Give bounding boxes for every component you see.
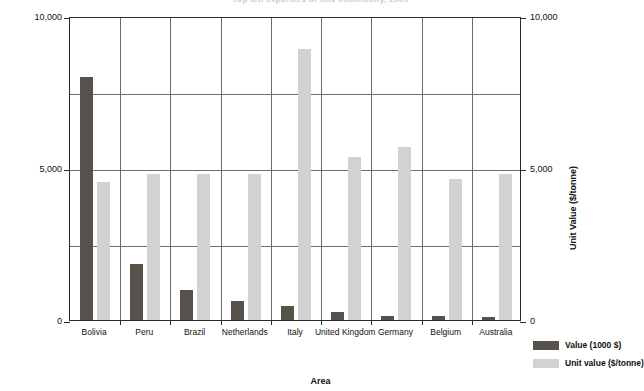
bar-unit-value bbox=[197, 174, 210, 320]
bar-group bbox=[371, 18, 421, 320]
bar-value bbox=[482, 317, 495, 320]
x-axis-tick bbox=[422, 320, 423, 325]
bar-value bbox=[381, 316, 394, 320]
y2-axis-tick bbox=[520, 322, 526, 323]
x-axis-tick bbox=[120, 320, 121, 325]
bar-unit-value bbox=[499, 174, 512, 320]
bar-group bbox=[170, 18, 220, 320]
bar-value bbox=[80, 77, 93, 320]
x-axis-tick bbox=[321, 320, 322, 325]
x-axis-label-australia: Australia bbox=[463, 327, 529, 337]
bar-group bbox=[271, 18, 321, 320]
y-axis-label: 0 bbox=[2, 317, 62, 326]
bar-value bbox=[130, 264, 143, 320]
y2-axis-tick bbox=[520, 170, 526, 171]
legend-item: Unit value ($/tonne) bbox=[533, 356, 644, 370]
x-axis-tick bbox=[170, 320, 171, 325]
bar-value bbox=[180, 290, 193, 320]
bar-unit-value bbox=[348, 157, 361, 320]
bar-value bbox=[231, 301, 244, 320]
x-axis-tick bbox=[371, 320, 372, 325]
bar-group bbox=[70, 18, 120, 320]
y2-axis-tick bbox=[520, 18, 526, 19]
bar-value bbox=[331, 312, 344, 320]
y-axis-tick bbox=[64, 322, 70, 323]
bar-group bbox=[321, 18, 371, 320]
y-axis-label: 5,000 bbox=[2, 165, 62, 174]
x-axis-title: Area bbox=[0, 376, 641, 386]
bar-unit-value bbox=[97, 182, 110, 320]
y-axis-label: 10,000 bbox=[2, 13, 62, 22]
bar-unit-value bbox=[147, 174, 160, 320]
y-axis-tick bbox=[64, 170, 70, 171]
x-axis-tick bbox=[221, 320, 222, 325]
chart-title: Top ten exporters of this commodity, 200… bbox=[0, 0, 641, 4]
y-axis-right-title: Unit Value ($/tonne) bbox=[568, 166, 578, 250]
plot-area bbox=[69, 17, 521, 321]
bar-unit-value bbox=[449, 179, 462, 320]
y2-axis-label: 10,000 bbox=[530, 13, 590, 22]
bar-group bbox=[472, 18, 522, 320]
bar-value bbox=[432, 316, 445, 320]
legend-label: Value (1000 $) bbox=[565, 340, 621, 350]
legend-swatch-unit-value-icon bbox=[533, 359, 559, 368]
x-axis-tick bbox=[472, 320, 473, 325]
legend-swatch-value-icon bbox=[533, 341, 559, 350]
bar-group bbox=[422, 18, 472, 320]
legend-item: Value (1000 $) bbox=[533, 338, 644, 352]
legend-label: Unit value ($/tonne) bbox=[565, 358, 644, 368]
bar-unit-value bbox=[398, 147, 411, 320]
bar-value bbox=[281, 306, 294, 320]
bar-unit-value bbox=[298, 49, 311, 320]
bar-group bbox=[221, 18, 271, 320]
y2-axis-label: 0 bbox=[530, 317, 590, 326]
bar-unit-value bbox=[248, 174, 261, 320]
bar-group bbox=[120, 18, 170, 320]
y2-axis-label: 5,000 bbox=[530, 165, 590, 174]
y-axis-tick bbox=[64, 18, 70, 19]
x-axis-tick bbox=[271, 320, 272, 325]
chart-legend: Value (1000 $) Unit value ($/tonne) bbox=[533, 338, 644, 374]
